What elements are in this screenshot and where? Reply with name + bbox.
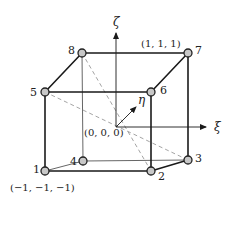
edge-4-8: [82, 53, 83, 161]
node-6-label: 6: [160, 84, 167, 97]
node-7-coord-label: (1, 1, 1): [141, 38, 181, 49]
origin-label: (0, 0, 0): [84, 127, 124, 138]
diagonal-8-2: [82, 53, 151, 171]
node-2-label: 2: [158, 170, 165, 183]
node-8: [78, 49, 86, 57]
node-2: [147, 167, 155, 175]
node-7: [184, 49, 192, 57]
node-1-coord-label: (−1, −1, −1): [10, 182, 75, 193]
edge-5-8: [45, 53, 82, 92]
node-1: [41, 167, 49, 175]
xi-axis-label: ξ: [214, 120, 222, 134]
visible-edges: [45, 53, 188, 171]
nodes: [41, 49, 192, 175]
node-4: [79, 157, 87, 165]
edge-2-3: [151, 160, 188, 171]
node-1-label: 1: [33, 163, 40, 176]
edge-1-4: [45, 161, 83, 171]
node-3-label: 3: [195, 152, 202, 165]
node-4-label: 4: [70, 155, 77, 168]
eta-axis-label: η: [138, 93, 146, 107]
hidden-edges: [45, 53, 188, 171]
node-8-label: 8: [68, 44, 75, 57]
node-5-label: 5: [30, 86, 37, 99]
edge-4-3: [83, 160, 188, 161]
hexahedron-diagram: 1 2 3 4 5 6 7 8 (−1, −1, −1) (1, 1, 1) (…: [0, 0, 230, 230]
diagonals: [45, 53, 188, 171]
zeta-axis-label: ζ: [113, 15, 121, 29]
node-3: [184, 156, 192, 164]
edge-6-7: [151, 53, 188, 92]
node-6: [147, 88, 155, 96]
node-5: [41, 88, 49, 96]
node-7-label: 7: [195, 44, 202, 57]
